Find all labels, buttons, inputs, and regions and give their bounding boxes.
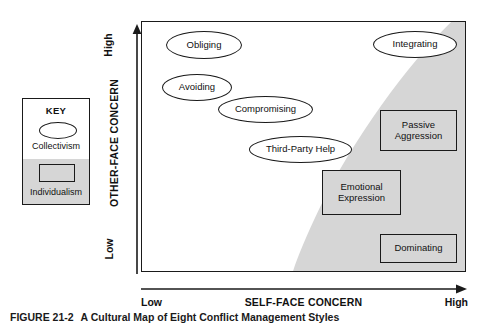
key-collectivism-label: Collectivism — [23, 141, 89, 151]
figure-caption-text: A Cultural Map of Eight Conflict Managem… — [81, 311, 340, 323]
style-node: Passive Aggression — [380, 110, 457, 151]
y-axis-high-label: High — [102, 25, 114, 65]
key-legend-box: KEY Collectivism Individualism — [22, 98, 90, 205]
y-axis-low-label: Low — [103, 230, 115, 268]
plot-area: ObligingAvoidingCompromisingThird-Party … — [141, 21, 466, 272]
style-node: Dominating — [380, 234, 457, 263]
rectangle-shaded-icon — [39, 164, 75, 182]
figure-caption: FIGURE 21-2A Cultural Map of Eight Confl… — [10, 311, 470, 323]
key-individualism-label: Individualism — [23, 187, 89, 197]
key-title: KEY — [23, 105, 89, 116]
ellipse-outline-icon — [39, 122, 77, 139]
figure-caption-number: FIGURE 21-2 — [10, 311, 74, 323]
style-node: Third-Party Help — [249, 136, 352, 163]
style-node: Avoiding — [162, 74, 232, 101]
style-node: Obliging — [166, 31, 242, 59]
style-node: Compromising — [218, 96, 313, 123]
y-axis-labels: High OTHER-FACE CONCERN Low — [96, 21, 130, 273]
x-axis-high-label: High — [0, 296, 468, 308]
right-arrow-icon — [141, 284, 467, 294]
y-axis-title: OTHER-FACE CONCERN — [108, 73, 120, 213]
style-node: Integrating — [373, 31, 457, 58]
style-node: Emotional Expression — [322, 170, 401, 215]
